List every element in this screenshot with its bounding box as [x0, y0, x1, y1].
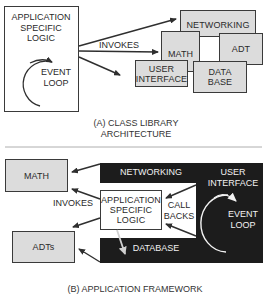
callback-arrows-b: [166, 185, 196, 236]
event-loop-arrow-a: [23, 60, 52, 106]
invokes-arrows-b: [72, 164, 100, 262]
app-to-database-arrow: [117, 230, 125, 254]
invokes-arrows-a: [79, 19, 176, 75]
event-loop-arrow-b: [201, 195, 236, 252]
